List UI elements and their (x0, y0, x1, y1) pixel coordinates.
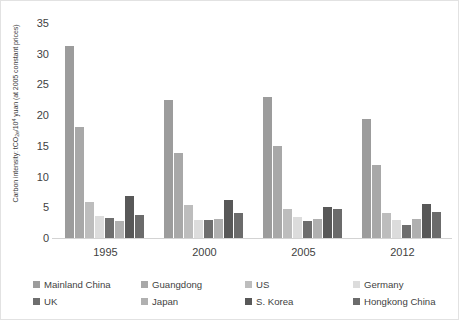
bar-group: 2000 (155, 23, 254, 238)
y-axis-title-subscript: 2e (14, 131, 20, 137)
legend-item-hongkong-china[interactable]: Hongkong China (353, 296, 453, 307)
bar-us[interactable] (283, 209, 292, 238)
legend-item-mainland-china[interactable]: Mainland China (33, 279, 141, 290)
bar-mainland-china[interactable] (65, 46, 74, 238)
y-tick-label: 0 (43, 232, 49, 244)
bar-hongkong-china[interactable] (135, 215, 144, 238)
bar-mainland-china[interactable] (362, 119, 371, 238)
bar-guangdong[interactable] (174, 153, 183, 238)
y-tick-label: 5 (43, 201, 49, 213)
legend-label: US (256, 279, 269, 290)
bar-japan[interactable] (412, 219, 421, 238)
bar-s-korea[interactable] (224, 200, 233, 238)
y-axis-title-post: yuan (at 2005 constant prices) (12, 24, 20, 118)
bar-us[interactable] (382, 213, 391, 238)
bar-group: 1995 (56, 23, 155, 238)
legend-swatch-icon (33, 281, 40, 288)
legend-swatch-icon (245, 281, 252, 288)
y-tick-label: 35 (37, 17, 49, 29)
legend-item-guangdong[interactable]: Guangdong (141, 279, 245, 290)
legend-label: Guangdong (152, 279, 202, 290)
legend-item-japan[interactable]: Japan (141, 296, 245, 307)
bar-mainland-china[interactable] (164, 100, 173, 238)
bar-germany[interactable] (293, 217, 302, 238)
legend-label: UK (44, 296, 57, 307)
legend-swatch-icon (353, 298, 360, 305)
bar-hongkong-china[interactable] (432, 212, 441, 238)
bar-hongkong-china[interactable] (333, 209, 342, 238)
bar-s-korea[interactable] (422, 204, 431, 238)
y-axis-title-container: Carbon intensity: tCO2e/104 yuan (at 200… (3, 1, 21, 251)
y-tick-label: 10 (37, 171, 49, 183)
bar-germany[interactable] (95, 216, 104, 238)
bar-japan[interactable] (115, 221, 124, 238)
chart-figure: Carbon intensity: tCO2e/104 yuan (at 200… (0, 0, 459, 320)
bar-uk[interactable] (105, 218, 114, 238)
legend-label: Mainland China (44, 279, 111, 290)
bar-guangdong[interactable] (273, 146, 282, 238)
legend-label: S. Korea (256, 296, 293, 307)
y-tick-label: 25 (37, 78, 49, 90)
legend-item-us[interactable]: US (245, 279, 353, 290)
bar-guangdong[interactable] (75, 127, 84, 238)
y-axis-title-superscript: 4 (11, 119, 17, 122)
legend-swatch-icon (141, 281, 148, 288)
bar-s-korea[interactable] (323, 207, 332, 238)
bar-germany[interactable] (392, 220, 401, 238)
bar-group: 2005 (254, 23, 353, 238)
bar-germany[interactable] (194, 220, 203, 238)
legend-swatch-icon (353, 281, 360, 288)
bar-s-korea[interactable] (125, 196, 134, 238)
bar-us[interactable] (184, 205, 193, 238)
legend-label: Hongkong China (364, 296, 435, 307)
x-axis-line (52, 238, 452, 239)
y-axis-title-pre: Carbon intensity: tCO (12, 137, 20, 203)
legend-item-uk[interactable]: UK (33, 296, 141, 307)
bar-japan[interactable] (214, 219, 223, 238)
plot-area: 35302520151050 1995200020052012 (56, 23, 452, 238)
legend-label: Japan (152, 296, 178, 307)
y-tick-label: 20 (37, 109, 49, 121)
bar-group-bars (164, 23, 244, 238)
x-tick-label: 2012 (353, 246, 452, 258)
bar-us[interactable] (85, 202, 94, 238)
legend-item-germany[interactable]: Germany (353, 279, 453, 290)
y-tick-label: 15 (37, 140, 49, 152)
bar-hongkong-china[interactable] (234, 213, 243, 238)
bar-mainland-china[interactable] (263, 97, 272, 238)
legend-label: Germany (364, 279, 403, 290)
bar-uk[interactable] (402, 225, 411, 239)
bar-group-bars (263, 23, 343, 238)
legend-swatch-icon (141, 298, 148, 305)
y-axis-title: Carbon intensity: tCO2e/104 yuan (at 200… (11, 0, 20, 230)
bar-group: 2012 (353, 23, 452, 238)
bar-japan[interactable] (313, 219, 322, 238)
y-axis-title-mid: /10 (12, 122, 20, 132)
bar-group-bars (362, 23, 442, 238)
legend-item-s-korea[interactable]: S. Korea (245, 296, 353, 307)
legend-swatch-icon (33, 298, 40, 305)
x-tick-label: 2000 (155, 246, 254, 258)
y-tick-label: 30 (37, 48, 49, 60)
x-tick-label: 1995 (56, 246, 155, 258)
bar-uk[interactable] (204, 220, 213, 238)
chart-legend: Mainland ChinaGuangdongUSGermanyUKJapanS… (33, 276, 453, 310)
bar-uk[interactable] (303, 221, 312, 238)
bar-group-bars (65, 23, 145, 238)
bar-guangdong[interactable] (372, 165, 381, 238)
x-tick-label: 2005 (254, 246, 353, 258)
legend-swatch-icon (245, 298, 252, 305)
